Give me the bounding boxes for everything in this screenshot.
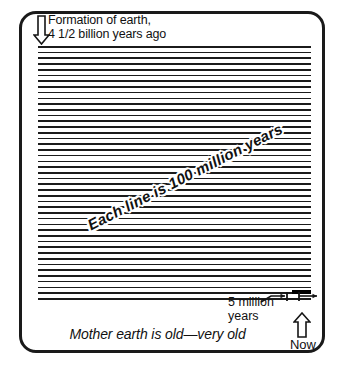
time-line xyxy=(38,46,311,48)
time-line xyxy=(38,275,311,277)
geologic-time-figure: Formation of earth, 4 1/2 billion years … xyxy=(0,0,347,372)
time-line xyxy=(38,115,311,117)
time-line xyxy=(38,57,311,59)
time-line xyxy=(38,264,311,266)
time-line xyxy=(38,212,311,214)
time-line xyxy=(38,201,311,203)
time-line xyxy=(38,75,311,77)
formation-caption: Formation of earth, 4 1/2 billion years … xyxy=(48,13,278,41)
now-label: Now xyxy=(283,337,323,352)
time-line xyxy=(38,149,311,151)
up-arrow-icon xyxy=(293,312,311,338)
five-million-years-label: 5 million years xyxy=(228,296,290,323)
time-line xyxy=(38,69,311,71)
time-line xyxy=(38,103,311,105)
time-line xyxy=(38,80,311,82)
time-line xyxy=(38,143,311,145)
time-line xyxy=(38,63,311,65)
time-line xyxy=(38,252,311,254)
time-line xyxy=(38,281,311,283)
time-line xyxy=(38,241,311,243)
time-line xyxy=(38,166,311,168)
time-line xyxy=(38,218,311,220)
time-line xyxy=(38,120,311,122)
tagline: Mother earth is old—very old xyxy=(40,326,275,342)
time-line xyxy=(38,98,311,100)
time-line xyxy=(38,246,311,248)
time-line xyxy=(38,155,311,157)
time-line xyxy=(38,86,311,88)
time-line xyxy=(38,224,311,226)
time-line xyxy=(38,109,311,111)
time-line xyxy=(38,195,311,197)
time-line xyxy=(38,161,311,163)
time-line xyxy=(38,92,311,94)
time-line xyxy=(38,258,311,260)
time-line xyxy=(38,206,311,208)
time-line xyxy=(38,269,311,271)
time-line xyxy=(38,229,311,231)
time-line xyxy=(38,52,311,54)
time-line xyxy=(38,235,311,237)
time-line xyxy=(38,287,311,289)
